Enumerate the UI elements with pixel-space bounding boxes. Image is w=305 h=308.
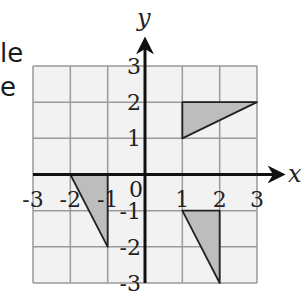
- coordinate-grid-diagram: x y 0 -3-2-1123 321-1-2-3: [0, 0, 305, 308]
- x-tick-label: 2: [213, 187, 227, 212]
- y-tick-label: -2: [120, 235, 141, 260]
- y-axis-label: y: [136, 4, 151, 32]
- x-tick-label: -1: [97, 187, 118, 212]
- x-axis-label: x: [288, 160, 302, 188]
- y-tick-label: -3: [120, 271, 141, 296]
- y-tick-label: 3: [127, 54, 141, 79]
- x-tick-label: 1: [175, 187, 189, 212]
- x-tick-label: -3: [22, 187, 43, 212]
- y-tick-label: 2: [127, 90, 141, 115]
- x-tick-label: 3: [250, 187, 264, 212]
- y-tick-label: 1: [127, 126, 141, 151]
- y-tick-label: -1: [120, 199, 141, 224]
- x-tick-label: -2: [60, 187, 81, 212]
